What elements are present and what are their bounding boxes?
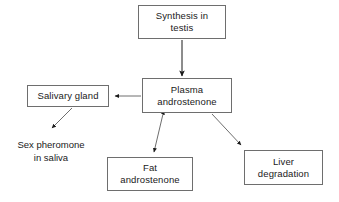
diagram-canvas: Synthesis in testis Plasma androstenone … — [0, 0, 339, 202]
edge-plasma-to-fat — [154, 114, 163, 152]
node-fat-androstenone: Fat androstenone — [107, 157, 193, 191]
node-synthesis-in-testis: Synthesis in testis — [138, 5, 226, 39]
edge-salivary-to-pheromone — [52, 108, 72, 128]
node-label: Fat androstenone — [120, 162, 179, 186]
edge-plasma-to-liver — [212, 114, 241, 145]
node-label: Plasma androstenone — [157, 84, 216, 108]
node-label: Salivary gland — [37, 90, 98, 102]
label-sex-pheromone-in-saliva: Sex pheromone in saliva — [4, 138, 98, 164]
node-label: Synthesis in testis — [156, 10, 208, 34]
node-liver-degradation: Liver degradation — [244, 150, 323, 185]
node-salivary-gland: Salivary gland — [27, 85, 109, 107]
node-label: Liver degradation — [258, 156, 309, 180]
node-plasma-androstenone: Plasma androstenone — [142, 78, 232, 113]
